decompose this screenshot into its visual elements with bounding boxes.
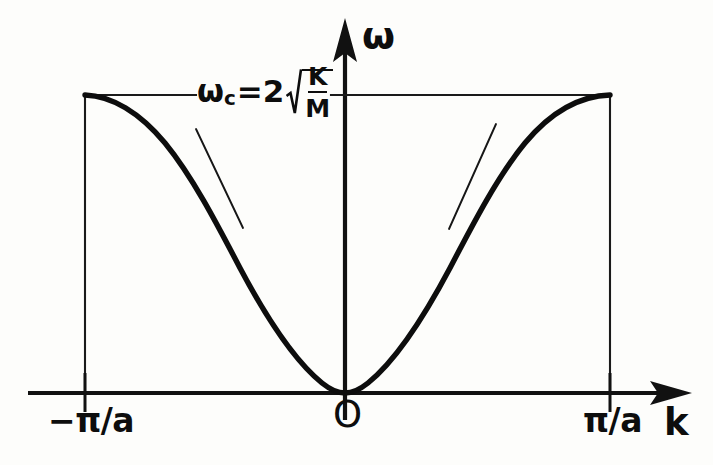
fraction-denominator-m: M (305, 95, 330, 122)
fraction-numerator-k: K (308, 63, 327, 93)
dispersion-figure: ω k O −π/a π/a ω c =2 K M (0, 0, 713, 465)
omega-c-omega-symbol: ω (197, 76, 224, 107)
tick-label-pi-over-a: π/a (583, 404, 642, 437)
origin-label: O (333, 396, 362, 433)
omega-c-subscript: c (224, 88, 236, 108)
k-axis-label: k (664, 404, 689, 441)
omega-c-equals-coefficient: =2 (237, 76, 285, 107)
omega-axis-label: ω (362, 16, 395, 54)
dispersion-curve (85, 95, 610, 393)
tangent-line-right (449, 124, 496, 229)
radical-icon (286, 67, 303, 115)
square-root-group: K M (286, 67, 333, 115)
k-over-m-fraction: K M (302, 69, 333, 115)
tick-label-neg-pi-over-a: −π/a (48, 404, 134, 437)
tangent-line-left (196, 129, 243, 228)
omega-c-annotation: ω c =2 K M (197, 62, 333, 120)
